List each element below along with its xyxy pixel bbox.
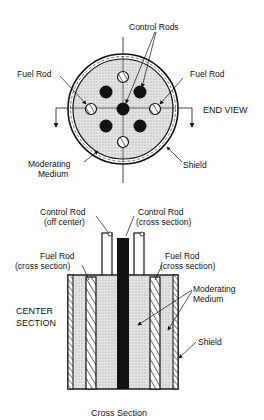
label-control-rod-off-2: (off center) bbox=[44, 217, 85, 227]
label-fuel-rod-right-2: (cross section) bbox=[160, 261, 215, 271]
center-section-title-1: CENTER bbox=[16, 306, 54, 316]
cross-section-view: Control Rod (off center) Control Rod (cr… bbox=[15, 207, 236, 418]
label-fuel-rod-right-1: Fuel Rod bbox=[165, 251, 200, 261]
control-rod bbox=[100, 86, 113, 99]
label-fuel-rod-left: Fuel Rod bbox=[17, 69, 52, 79]
label-shield: Shield bbox=[183, 160, 207, 170]
fuel-rod bbox=[118, 72, 129, 83]
shield-left bbox=[68, 275, 73, 389]
reactor-diagram: Control Rods Fuel Rod Fuel Rod END VIEW … bbox=[0, 0, 264, 420]
label-control-rod-off-1: Control Rod bbox=[40, 207, 86, 217]
label-moderating-medium-1: Moderating bbox=[193, 284, 236, 294]
label-control-rods: Control Rods bbox=[129, 22, 179, 32]
label-fuel-rod-left-2: (cross section) bbox=[15, 261, 70, 271]
shield-right bbox=[173, 275, 178, 389]
end-view-title: END VIEW bbox=[203, 105, 248, 115]
fuel-rod-right bbox=[150, 104, 161, 115]
cross-section-caption: Cross Section bbox=[91, 408, 147, 418]
label-control-rod-cross-1: Control Rod bbox=[138, 207, 184, 217]
control-rod-off-center bbox=[134, 233, 144, 276]
fuel-rod bbox=[118, 137, 129, 148]
control-rod bbox=[134, 86, 147, 99]
end-view: Control Rods Fuel Rod Fuel Rod END VIEW … bbox=[17, 22, 248, 183]
label-shield: Shield bbox=[198, 337, 222, 347]
fuel-rod-right-section bbox=[150, 277, 160, 389]
control-rod-center bbox=[117, 103, 130, 116]
center-section-title-2: SECTION bbox=[16, 318, 56, 328]
control-rod bbox=[134, 120, 147, 133]
fuel-rod-left-section bbox=[86, 277, 96, 389]
control-rod-off-center bbox=[102, 233, 112, 276]
control-rod bbox=[100, 120, 113, 133]
label-fuel-rod-right: Fuel Rod bbox=[190, 69, 225, 79]
label-control-rod-cross-2: (cross section) bbox=[136, 217, 191, 227]
label-moderating-medium-2: Medium bbox=[193, 294, 223, 304]
label-fuel-rod-left-1: Fuel Rod bbox=[40, 251, 75, 261]
label-moderating-medium-1: Moderating bbox=[28, 159, 71, 169]
control-rod-center-section bbox=[117, 238, 129, 389]
fuel-rod-left bbox=[86, 104, 97, 115]
label-moderating-medium-2: Medium bbox=[38, 169, 68, 179]
